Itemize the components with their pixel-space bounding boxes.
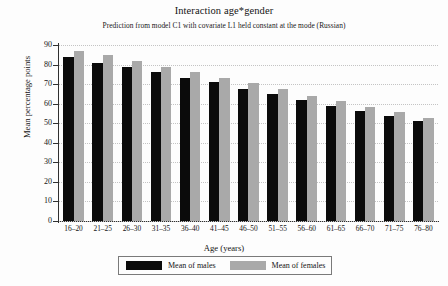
bar-group bbox=[409, 45, 438, 221]
x-tick-label: 21–25 bbox=[88, 224, 117, 233]
y-tick-mark bbox=[53, 201, 58, 202]
bar-group bbox=[234, 45, 263, 221]
chart-subtitle: Prediction from model C1 with covariate … bbox=[0, 21, 448, 30]
y-tick-label: 60 bbox=[22, 100, 52, 108]
bar-series-layer bbox=[59, 45, 438, 221]
x-tick-label: 61–65 bbox=[321, 224, 350, 233]
bar-female bbox=[336, 101, 346, 221]
x-tick-label: 41–45 bbox=[205, 224, 234, 233]
gridline bbox=[59, 221, 438, 222]
bar-female bbox=[423, 118, 433, 221]
y-tick-label: 90 bbox=[22, 41, 52, 49]
y-tick-mark bbox=[53, 162, 58, 163]
bar-male bbox=[180, 78, 190, 221]
x-tick-label: 71–75 bbox=[380, 224, 409, 233]
y-tick-mark bbox=[53, 65, 58, 66]
bar-male bbox=[92, 63, 102, 221]
chart-title: Interaction age*gender bbox=[0, 5, 448, 16]
y-tick-mark bbox=[53, 123, 58, 124]
x-tick-label: 36–40 bbox=[176, 224, 205, 233]
y-tick-label: 40 bbox=[22, 139, 52, 147]
x-tick-label: 76–80 bbox=[409, 224, 438, 233]
legend-label-females: Mean of females bbox=[272, 261, 326, 270]
legend-entry-females: Mean of females bbox=[230, 257, 326, 274]
bar-group bbox=[380, 45, 409, 221]
bar-male bbox=[267, 94, 277, 221]
bar-group bbox=[321, 45, 350, 221]
bar-group bbox=[59, 45, 88, 221]
y-tick-label: 0 bbox=[22, 217, 52, 225]
y-tick-mark bbox=[53, 104, 58, 105]
y-tick-mark bbox=[53, 143, 58, 144]
bar-group bbox=[88, 45, 117, 221]
chart-page: Interaction age*gender Prediction from m… bbox=[0, 0, 448, 286]
bar-male bbox=[384, 116, 394, 221]
x-tick-label: 66–70 bbox=[351, 224, 380, 233]
bar-group bbox=[205, 45, 234, 221]
y-tick-label: 10 bbox=[22, 197, 52, 205]
plot-area bbox=[59, 45, 438, 221]
legend-label-males: Mean of males bbox=[168, 261, 216, 270]
x-tick-label: 51–55 bbox=[263, 224, 292, 233]
bar-group bbox=[263, 45, 292, 221]
bar-group bbox=[351, 45, 380, 221]
bar-female bbox=[307, 96, 317, 221]
y-tick-mark bbox=[53, 221, 58, 222]
y-tick-mark bbox=[53, 84, 58, 85]
x-tick-label: 56–60 bbox=[292, 224, 321, 233]
x-tick-label: 46–50 bbox=[234, 224, 263, 233]
bar-female bbox=[365, 107, 375, 221]
bar-male bbox=[413, 121, 423, 221]
y-tick-mark bbox=[53, 45, 58, 46]
bar-male bbox=[209, 82, 219, 221]
y-tick-label: 30 bbox=[22, 158, 52, 166]
bar-female bbox=[103, 55, 113, 221]
bar-male bbox=[238, 89, 248, 221]
bar-male bbox=[355, 111, 365, 221]
x-axis-title: Age (years) bbox=[0, 243, 448, 253]
bar-male bbox=[63, 57, 73, 221]
x-tick-label: 16–20 bbox=[59, 224, 88, 233]
legend-entry-males: Mean of males bbox=[126, 257, 216, 274]
bar-male bbox=[122, 67, 132, 221]
y-tick-label: 20 bbox=[22, 178, 52, 186]
bar-group bbox=[292, 45, 321, 221]
y-tick-mark bbox=[53, 182, 58, 183]
black-swatch-icon bbox=[126, 261, 162, 270]
chart-legend: Mean of males Mean of females bbox=[118, 256, 332, 275]
bar-female bbox=[248, 83, 258, 221]
y-tick-label: 70 bbox=[22, 80, 52, 88]
bar-male bbox=[296, 100, 306, 221]
x-tick-label: 31–35 bbox=[146, 224, 175, 233]
bar-female bbox=[74, 51, 84, 221]
bar-female bbox=[161, 67, 171, 221]
bar-female bbox=[132, 61, 142, 221]
bar-group bbox=[176, 45, 205, 221]
bar-group bbox=[117, 45, 146, 221]
bar-male bbox=[326, 106, 336, 221]
bar-female bbox=[190, 72, 200, 221]
bar-female bbox=[394, 112, 404, 222]
y-tick-label: 80 bbox=[22, 61, 52, 69]
x-tick-label: 26–30 bbox=[117, 224, 146, 233]
bar-female bbox=[278, 89, 288, 221]
y-tick-label: 50 bbox=[22, 119, 52, 127]
bar-female bbox=[219, 78, 229, 221]
bar-male bbox=[151, 72, 161, 221]
gray-swatch-icon bbox=[230, 261, 266, 270]
bar-group bbox=[146, 45, 175, 221]
